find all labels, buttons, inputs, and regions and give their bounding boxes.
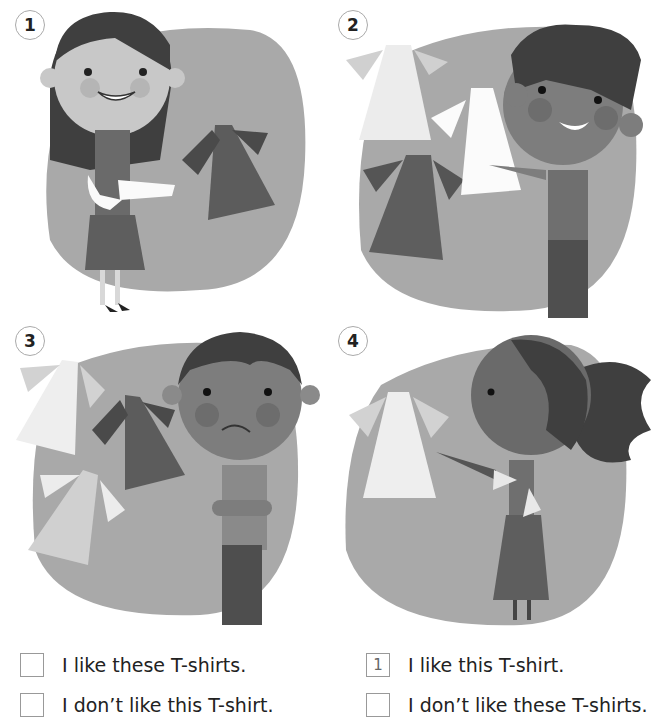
frowning-boy-illustration [0, 320, 331, 640]
panel-number-badge: 3 [15, 326, 45, 356]
panel-2: 2 [331, 0, 662, 320]
panel-1: 1 [0, 0, 331, 320]
answer-box[interactable]: 1 [366, 653, 390, 677]
answer-text: I don’t like these T-shirts. [408, 694, 647, 716]
answer-option: I don’t like this T-shirt. [20, 690, 273, 720]
answer-options: I like these T-shirts. 1 I like this T-s… [0, 645, 662, 711]
answer-text: I like these T-shirts. [62, 654, 246, 676]
panel-number-badge: 4 [338, 326, 368, 356]
answer-option: I don’t like these T-shirts. [366, 690, 647, 720]
panel-number-badge: 1 [15, 10, 45, 40]
girl-illustration [0, 0, 331, 320]
answer-option: I like these T-shirts. [20, 650, 246, 680]
answer-box[interactable] [366, 693, 390, 717]
panel-3: 3 [0, 320, 331, 640]
answer-option: 1 I like this T-shirt. [366, 650, 564, 680]
answer-box[interactable] [20, 693, 44, 717]
panel-4: 4 [331, 320, 662, 640]
answer-box[interactable] [20, 653, 44, 677]
panel-number-badge: 2 [338, 10, 368, 40]
answer-text: I don’t like this T-shirt. [62, 694, 273, 716]
ponytail-girl-illustration [331, 320, 662, 640]
boy-pointing-illustration [331, 0, 662, 330]
answer-text: I like this T-shirt. [408, 654, 564, 676]
